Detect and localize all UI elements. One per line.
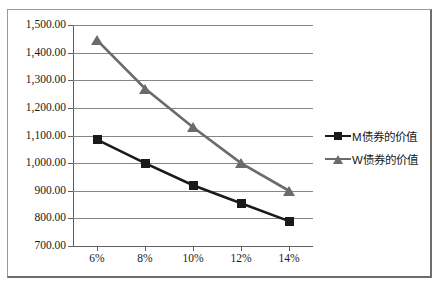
y-axis-tick-label: 1,000.00 — [4, 157, 66, 168]
series-line-w — [97, 40, 289, 191]
y-axis-tick — [68, 108, 73, 109]
y-axis-tick — [68, 53, 73, 54]
data-point — [93, 135, 102, 144]
x-axis-tick-label: 10% — [171, 252, 215, 264]
x-axis-tick — [193, 246, 194, 251]
y-axis-tick-label: 1,200.00 — [4, 102, 66, 113]
data-point — [139, 84, 151, 94]
chart-plot-wrapper: 1,500.001,400.001,300.001,200.001,100.00… — [0, 0, 444, 290]
y-axis-tick-label: 700.00 — [4, 240, 66, 251]
data-point — [235, 158, 247, 168]
legend-label-m: M债券的价值 — [352, 128, 417, 144]
series-lines — [73, 25, 313, 246]
legend-marker-square-icon — [325, 130, 351, 142]
y-axis-tick — [68, 25, 73, 26]
data-point — [141, 159, 150, 168]
chart-legend: M债券的价值 W债券的价值 — [325, 124, 429, 170]
plot-area — [73, 25, 313, 246]
y-axis-tick — [68, 191, 73, 192]
x-axis-tick — [241, 246, 242, 251]
y-axis-labels: 1,500.001,400.001,300.001,200.001,100.00… — [2, 0, 66, 290]
legend-item-w: W债券的价值 — [325, 147, 429, 170]
y-axis-tick — [68, 218, 73, 219]
y-axis-tick-label: 1,500.00 — [4, 19, 66, 30]
y-axis-tick-label: 1,300.00 — [4, 74, 66, 85]
x-axis-tick — [97, 246, 98, 251]
x-axis-tick — [289, 246, 290, 251]
x-axis-tick — [145, 246, 146, 251]
data-point — [91, 35, 103, 45]
legend-label-w: W债券的价值 — [352, 151, 418, 167]
data-point — [283, 186, 295, 196]
y-axis-tick-label: 900.00 — [4, 185, 66, 196]
data-point — [187, 122, 199, 132]
y-axis-tick — [68, 136, 73, 137]
y-axis-tick — [68, 163, 73, 164]
data-point — [285, 217, 294, 226]
y-axis-tick-label: 800.00 — [4, 212, 66, 223]
legend-marker-triangle-icon — [325, 153, 351, 165]
y-axis-tick — [68, 80, 73, 81]
data-point — [237, 199, 246, 208]
data-point — [189, 181, 198, 190]
legend-item-m: M债券的价值 — [325, 124, 429, 147]
x-axis-tick-label: 6% — [75, 252, 119, 264]
x-axis-tick-label: 8% — [123, 252, 167, 264]
x-axis-tick-label: 14% — [267, 252, 311, 264]
y-axis-tick — [68, 246, 73, 247]
x-axis-tick-label: 12% — [219, 252, 263, 264]
y-axis-tick-label: 1,400.00 — [4, 47, 66, 58]
y-axis-tick-label: 1,100.00 — [4, 130, 66, 141]
